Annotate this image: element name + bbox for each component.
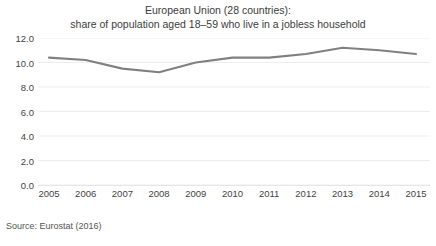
gridlines	[38, 38, 430, 185]
axis-baseline	[38, 185, 430, 186]
y-axis-tick-label: 4.0	[0, 131, 34, 142]
data-series-line	[49, 48, 416, 73]
line-chart-svg	[38, 38, 430, 185]
chart-title: European Union (28 countries): share of …	[0, 3, 436, 31]
x-axis-tick-label: 2015	[405, 188, 426, 199]
chart-title-line-1: European Union (28 countries):	[0, 3, 436, 17]
x-axis-tick-label: 2013	[332, 188, 353, 199]
y-axis-tick-label: 6.0	[0, 106, 34, 117]
source-note: Source: Eurostat (2016)	[6, 221, 102, 231]
y-axis: 12.010.08.06.04.02.00.0	[0, 0, 34, 246]
y-axis-tick-label: 10.0	[0, 57, 34, 68]
x-axis-tick-label: 2011	[259, 188, 279, 199]
x-axis-tick-label: 2012	[295, 188, 316, 199]
x-axis-tick-label: 2006	[75, 188, 96, 199]
x-axis-tick-label: 2009	[185, 188, 206, 199]
x-axis-tick-label: 2014	[369, 188, 390, 199]
x-axis: 2005200620072008200920102011201220132014…	[38, 188, 430, 204]
x-axis-tick-label: 2008	[149, 188, 170, 199]
plot-area	[38, 38, 430, 185]
chart-container: European Union (28 countries): share of …	[0, 0, 436, 246]
y-axis-tick-label: 12.0	[0, 33, 34, 44]
y-axis-tick-label: 2.0	[0, 155, 34, 166]
x-axis-tick-label: 2007	[112, 188, 133, 199]
x-axis-tick-label: 2010	[222, 188, 243, 199]
x-axis-tick-label: 2005	[38, 188, 59, 199]
y-axis-tick-label: 0.0	[0, 180, 34, 191]
y-axis-tick-label: 8.0	[0, 82, 34, 93]
chart-subtitle: share of population aged 18–59 who live …	[0, 17, 436, 31]
